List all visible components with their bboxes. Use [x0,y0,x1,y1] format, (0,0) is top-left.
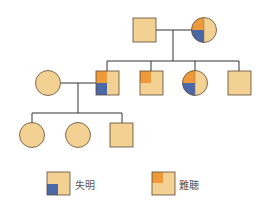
g3-son [110,123,133,147]
legend-blindness-label: 失明 [75,177,95,192]
g2-daughter [182,70,208,96]
blindness-quadrant [96,83,107,95]
pedigree-lines [32,30,239,123]
legend-blindness-swatch [47,172,70,195]
deafness-quadrant [96,71,107,83]
legend-deafness-label: 難聴 [179,177,199,192]
g2-son3 [228,71,251,95]
g1-mother [191,17,217,43]
legend-deafness-swatch [152,172,175,195]
pedigree-chart [0,0,265,211]
g2-son2 [140,71,163,95]
g3-daughter2 [66,123,91,148]
g2-spouse [36,71,61,96]
g1-father [133,18,156,42]
deafness-quadrant [140,71,151,83]
g2-son1 [96,71,119,95]
g3-daughter1 [20,123,45,148]
